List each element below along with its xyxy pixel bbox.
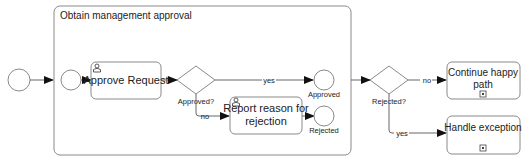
flow-label-no: no xyxy=(201,112,209,121)
task-label-line1: Report reason for xyxy=(223,102,309,114)
end-event-label: Approved xyxy=(308,90,340,99)
bpmn-diagram: Obtain management approval Approve Reque… xyxy=(0,0,530,164)
expand-marker-icon[interactable] xyxy=(480,91,486,97)
task-label: Handle exception xyxy=(444,122,521,133)
task-label-line2: rejection xyxy=(245,115,287,127)
flow-label-yes: yes xyxy=(396,129,408,138)
subprocess-continue-happy-path[interactable]: Continue happy path xyxy=(447,62,520,99)
task-label-line1: Continue happy xyxy=(448,67,518,78)
subprocess-handle-exception[interactable]: Handle exception xyxy=(444,116,521,154)
subprocess-title: Obtain management approval xyxy=(60,10,192,21)
task-report-reason-for-rejection[interactable]: Report reason for rejection xyxy=(223,97,309,134)
task-label-line2: path xyxy=(473,79,492,90)
task-label: Approve Request xyxy=(84,74,169,86)
task-approve-request[interactable]: Approve Request xyxy=(84,62,169,99)
flow-label-yes: yes xyxy=(263,76,275,85)
start-event-inner[interactable] xyxy=(61,70,81,90)
flow-label-no: no xyxy=(423,76,431,85)
end-event-label: Rejected xyxy=(309,126,339,135)
expand-marker-icon[interactable] xyxy=(480,145,486,151)
start-event-outer[interactable] xyxy=(8,69,30,91)
